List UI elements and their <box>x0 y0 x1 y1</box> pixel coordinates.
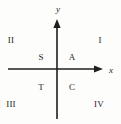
quadrant-2-letter: S <box>38 53 43 62</box>
quadrant-3-letter: T <box>38 83 44 92</box>
quadrant-2-roman-numeral: II <box>8 36 14 45</box>
quadrant-4-letter: C <box>69 83 75 92</box>
quadrant-diagram: y x I II III IV A S T C <box>0 0 121 124</box>
y-axis-arrowhead <box>53 19 60 28</box>
quadrant-4-roman-numeral: IV <box>94 100 104 109</box>
x-axis-arrowhead <box>94 65 103 72</box>
quadrant-3-roman-numeral: III <box>6 100 16 109</box>
x-axis-label: x <box>109 66 113 75</box>
y-axis-label: y <box>56 5 60 14</box>
quadrant-1-roman-numeral: I <box>98 36 101 45</box>
quadrant-1-letter: A <box>69 53 76 62</box>
